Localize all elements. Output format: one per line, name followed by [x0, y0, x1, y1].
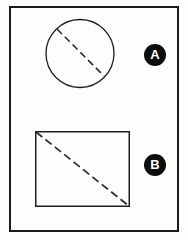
- geometry-figure: A B: [0, 0, 188, 240]
- circle-outline: [46, 20, 114, 88]
- shape-b-group: [36, 132, 130, 207]
- circle-dashed-diameter: [57, 29, 104, 76]
- shape-a-group: [46, 20, 114, 88]
- figure-canvas: [0, 0, 188, 240]
- badge-label-b: B: [144, 154, 166, 176]
- rectangle-dashed-diagonal: [36, 132, 129, 206]
- badge-label-a: A: [144, 44, 166, 66]
